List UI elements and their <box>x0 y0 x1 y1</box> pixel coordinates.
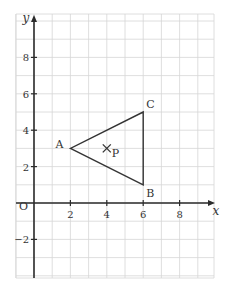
y-tick-label: 4 <box>23 125 29 136</box>
x-tick-label: 4 <box>104 209 110 220</box>
coordinate-grid-diagram: 2468−22468OxyABCP <box>0 0 226 288</box>
vertex-label-c: C <box>146 98 154 111</box>
y-tick-label: 6 <box>23 89 29 100</box>
y-tick-label: 8 <box>23 52 29 63</box>
y-axis-arrow-icon <box>31 15 37 22</box>
origin-label: O <box>19 200 28 213</box>
vertex-label-a: A <box>54 138 64 151</box>
x-tick-label: 2 <box>67 209 73 220</box>
x-tick-label: 6 <box>140 209 146 220</box>
x-axis-label: x <box>213 204 220 218</box>
vertex-label-b: B <box>146 187 154 200</box>
labels: 2468−22468OxyABCP <box>14 11 219 245</box>
point-label-p: P <box>112 147 120 160</box>
grid-lines <box>16 14 214 278</box>
x-tick-label: 8 <box>176 209 182 220</box>
y-tick-label: 2 <box>23 162 29 173</box>
y-axis-label: y <box>22 11 30 25</box>
y-tick-label: −2 <box>14 234 29 245</box>
